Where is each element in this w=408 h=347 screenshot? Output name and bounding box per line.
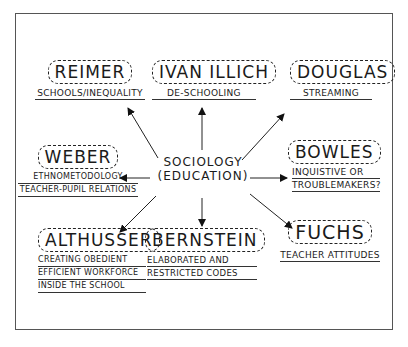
central-topic-line2: (EDUCATION) xyxy=(148,169,258,183)
node-desc: DE-SCHOOLING xyxy=(152,88,256,100)
node-bowles: BOWLES INQUISTIVE OR TROUBLEMAKERS? xyxy=(288,140,380,193)
node-title: IVAN ILLICH xyxy=(152,60,276,84)
node-title: BOWLES xyxy=(288,140,381,164)
node-desc: ETHNOMETODOLOGY xyxy=(18,172,138,184)
node-desc: TROUBLEMAKERS? xyxy=(292,180,380,192)
node-desc: CREATING OBEDIENT xyxy=(38,255,146,267)
node-desc: RESTRICTED CODES xyxy=(147,268,257,280)
node-title: FUCHS xyxy=(288,220,371,244)
central-topic-line1: SOCIOLOGY xyxy=(148,155,258,169)
central-topic: SOCIOLOGY (EDUCATION) xyxy=(148,155,258,183)
node-desc: INQUISTIVE OR xyxy=(292,167,380,179)
node-title: ALTHUSSER xyxy=(38,228,160,252)
arrow-to-althusser xyxy=(120,196,156,232)
node-title: BERNSTEIN xyxy=(145,228,265,252)
node-althusser: ALTHUSSER CREATING OBEDIENT EFFICIENT WO… xyxy=(38,228,146,294)
node-title: WEBER xyxy=(38,145,119,169)
node-reimer: REIMER SCHOOLS/INEQUALITY xyxy=(35,60,145,101)
node-desc: INSIDE THE SCHOOL xyxy=(38,281,146,293)
arrow-to-douglas xyxy=(242,114,284,160)
node-title: REIMER xyxy=(48,60,133,84)
node-desc: TEACHER-PUPIL RELATIONS xyxy=(18,185,138,197)
node-douglas: DOUGLAS STREAMING xyxy=(290,60,372,101)
node-weber: WEBER ETHNOMETODOLOGY TEACHER-PUPIL RELA… xyxy=(18,145,138,198)
node-desc: ELABORATED AND xyxy=(147,255,257,267)
node-title: DOUGLAS xyxy=(290,60,395,84)
node-desc: SCHOOLS/INEQUALITY xyxy=(35,88,145,100)
node-bernstein: BERNSTEIN ELABORATED AND RESTRICTED CODE… xyxy=(145,228,257,281)
node-desc: STREAMING xyxy=(290,88,372,100)
node-fuchs: FUCHS TEACHER ATTITUDES xyxy=(280,220,380,263)
node-desc: TEACHER ATTITUDES xyxy=(280,250,380,262)
node-ivan-illich: IVAN ILLICH DE-SCHOOLING xyxy=(152,60,256,101)
node-desc: EFFICIENT WORKFORCE xyxy=(38,268,146,280)
